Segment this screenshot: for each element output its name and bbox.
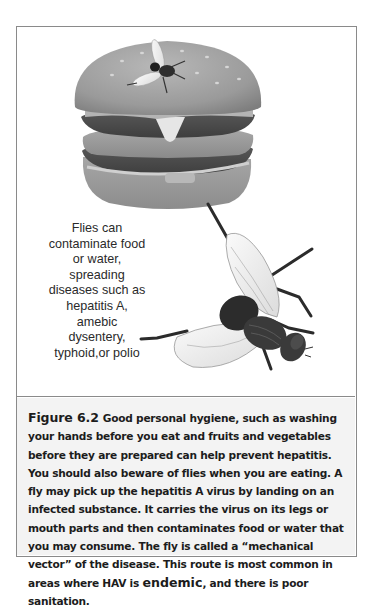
caption-text: Figure 6.2Good personal hygiene, such as…: [28, 409, 345, 609]
figure-frame: Flies can contaminate food or water, spr…: [16, 26, 357, 557]
housefly-icon: [141, 204, 313, 369]
figure-label: Figure 6.2: [28, 410, 99, 425]
figure-caption: Figure 6.2Good personal hygiene, such as…: [17, 398, 355, 555]
illustration-panel: Flies can contaminate food or water, spr…: [17, 27, 355, 397]
caption-body: Good personal hygiene, such as washing y…: [28, 412, 344, 589]
glossary-term: endemic: [142, 575, 202, 590]
illustration-side-note: Flies can contaminate food or water, spr…: [47, 221, 147, 361]
